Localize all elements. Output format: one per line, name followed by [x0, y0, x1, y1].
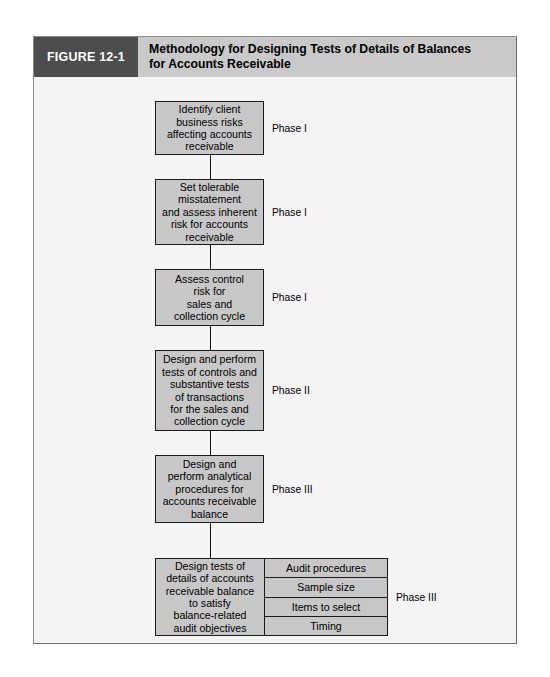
node-box-identify-client-business-risks: Identify client business risks affecting…	[155, 101, 264, 155]
subitem-timing: Timing	[265, 617, 387, 635]
flowchart-area: Identify client business risks affecting…	[34, 77, 516, 643]
connector-1-2	[210, 155, 211, 179]
phase-label-identify-client-business-risks: Phase I	[272, 101, 307, 155]
connector-2-3	[210, 245, 211, 269]
node-box-design-perform-analytical-procedures: Design and perform analytical procedures…	[155, 455, 264, 523]
connector-4-5	[210, 431, 211, 455]
figure-number-tag: FIGURE 12-1	[34, 37, 138, 77]
tests-of-details-subitems: Audit procedures Sample size Items to se…	[265, 559, 387, 635]
phase-label-assess-control-risk: Phase I	[272, 269, 307, 326]
node-box-assess-control-risk: Assess control risk for sales and collec…	[155, 269, 264, 326]
phase-label-design-perform-tests-of-controls: Phase II	[272, 350, 310, 431]
phase-label-set-tolerable-misstatement: Phase I	[272, 179, 307, 245]
node-box-design-tests-of-details-of-balances: Design tests of details of accounts rece…	[156, 559, 265, 635]
flow-node-design-tests-of-details-of-balances: Design tests of details of accounts rece…	[155, 558, 388, 636]
subitem-sample-size: Sample size	[265, 578, 387, 597]
figure-title: Methodology for Designing Tests of Detai…	[138, 37, 516, 77]
subitem-items-to-select: Items to select	[265, 598, 387, 617]
figure-header: FIGURE 12-1 Methodology for Designing Te…	[34, 37, 516, 77]
subitem-audit-procedures: Audit procedures	[265, 559, 387, 578]
node-box-set-tolerable-misstatement: Set tolerable misstatement and assess in…	[155, 179, 264, 245]
node-box-design-perform-tests-of-controls: Design and perform tests of controls and…	[155, 350, 264, 431]
phase-label-design-perform-analytical-procedures: Phase III	[272, 455, 313, 523]
connector-5-6	[210, 523, 211, 558]
figure-frame: FIGURE 12-1 Methodology for Designing Te…	[33, 36, 517, 644]
connector-3-4	[210, 326, 211, 350]
phase-label-design-tests-of-details-of-balances: Phase III	[396, 558, 437, 636]
